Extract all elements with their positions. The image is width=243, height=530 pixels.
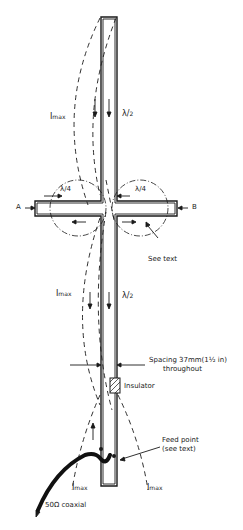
- feed-point-label-line2: (see text): [162, 446, 196, 453]
- antenna-diagram: Imax λ/2 λ/4 λ/4 A B See text Imax λ/2 S…: [0, 0, 243, 530]
- antenna-drawing: [0, 0, 243, 530]
- insulator-block: [110, 378, 120, 393]
- see-text-label: See text: [148, 256, 177, 263]
- imax-label-bottom-left: Imax: [72, 484, 87, 492]
- spacing-label-line2: throughout: [163, 366, 202, 373]
- spacing-label: Spacing 37mm(1½ in): [149, 357, 227, 364]
- imax-label-middle: Imax: [56, 290, 71, 298]
- current-curve-top-inner: [93, 18, 116, 195]
- point-a-label: A: [16, 204, 21, 211]
- lambda-half-label-top: λ/2: [122, 110, 133, 118]
- imax-label-top: Imax: [50, 113, 65, 121]
- stub-circle-left: [50, 180, 106, 236]
- folded-element-outline: [35, 17, 177, 486]
- current-curve-bottom-left: [72, 395, 100, 490]
- feed-point-label: Feed point: [162, 437, 199, 444]
- lambda-quarter-label-right: λ/4: [135, 186, 146, 193]
- current-curve-mid-outer: [83, 218, 101, 405]
- insulator-label: Insulator: [124, 383, 155, 390]
- lambda-quarter-label-left: λ/4: [60, 186, 71, 193]
- current-curve-bottom-right: [118, 395, 148, 490]
- imax-label-bottom-right: Imax: [147, 484, 162, 492]
- point-b-label: B: [192, 204, 197, 211]
- lambda-half-label-bottom: λ/2: [122, 292, 133, 300]
- coax-label: 50Ω coaxial: [45, 502, 86, 509]
